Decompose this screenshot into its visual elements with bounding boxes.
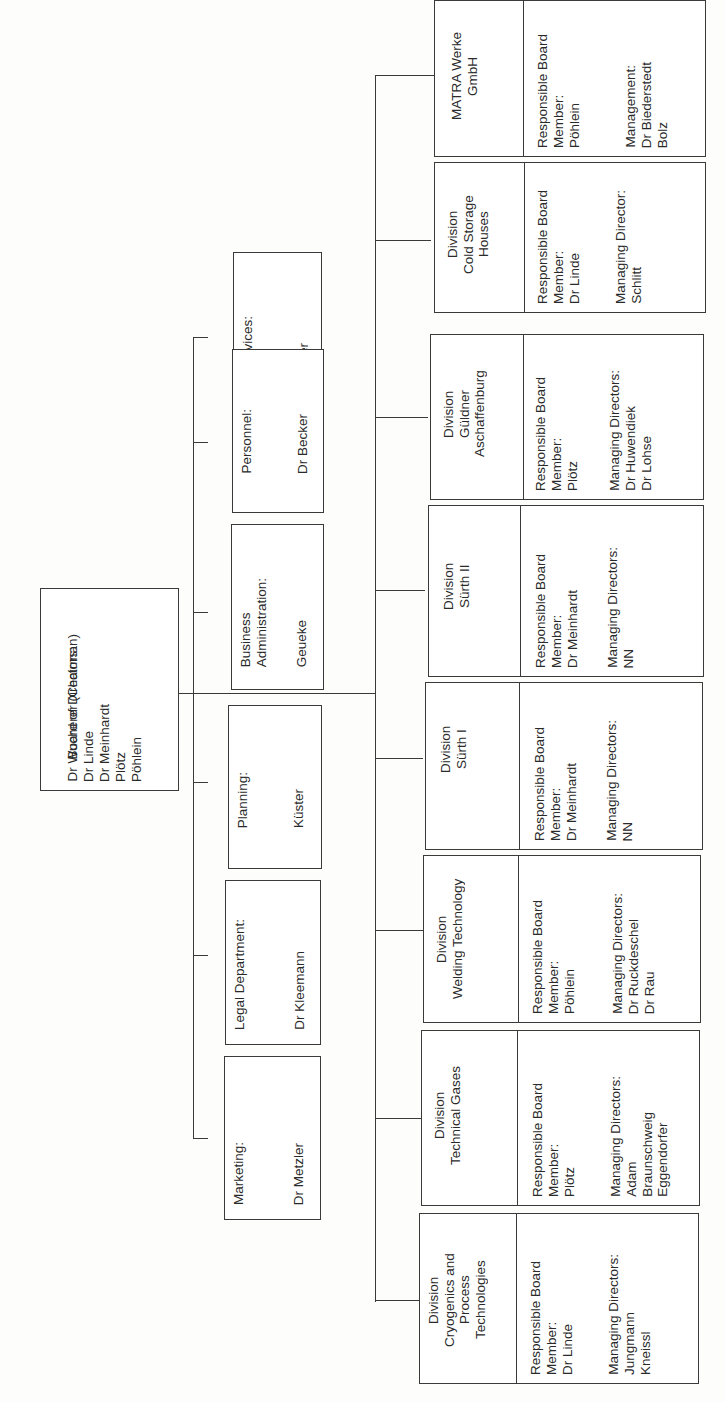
division-box-welding-technology: Division Welding Technology Responsible … [423,855,701,1023]
board-member: Plötz [113,752,128,782]
board-member-name: Dr Linde [567,253,582,304]
board-member-name: Pöhlein [562,969,577,1014]
management-names: NN [621,649,636,669]
management-names: NN [620,822,635,842]
division-name: Division Cold Storage Houses [445,195,491,274]
staff-title: Marketing: [231,1142,246,1205]
division-branch [375,1118,421,1119]
staff-box-personnel: Personnel: Dr Becker [232,349,324,513]
staff-branch [193,782,208,783]
management-names: Dr Huwendiek Dr Lohse [623,406,654,491]
staff-box-marketing: Marketing: Dr Metzler [224,1056,321,1220]
staff-head: Dr Metzler [291,1143,306,1205]
board-of-directors-box: Board of Directors: Dr Wucherer (Chairma… [40,588,179,791]
board-member-name: Dr Meinhardt [565,590,580,668]
board-member: Pöhlein [129,737,144,782]
staff-branch [193,612,208,613]
management-names: Dr Biederstedt Bolz [639,62,670,148]
division-box-suerth-2: Division Sürth II Responsible Board Memb… [428,505,704,677]
management-label: Management: [623,65,638,148]
board-member: Dr Wucherer (Chairman) [65,634,80,782]
staff-title: Planning: [235,772,250,828]
division-box-technical-gases: Division Technical Gases Responsible Boa… [421,1030,700,1206]
division-branch [375,1300,419,1301]
division-box-suerth-1: Division Sürth I Responsible Board Membe… [425,682,703,850]
division-name: MATRA Werke GmbH [449,32,480,120]
division-box-cryogenics-process-technologies: Division Cryogenics and Process Technolo… [419,1213,699,1384]
staff-head: Dr Kleemann [292,951,307,1030]
staff-trunk-line [193,337,194,1139]
board-member: Dr Meinhardt [97,704,112,782]
board-member-label: Responsible Board Member: [535,190,566,304]
management-names: Schlitt [629,267,644,304]
board-member-label: Responsible Board Member: [530,900,561,1014]
division-name: Division Güldner Aschaffenburg [441,371,487,458]
staff-box-business-administration: Business Administration: Geueke [231,524,324,690]
management-label: Managing Directors: [606,1254,621,1375]
board-member-label: Responsible Board Member: [533,377,564,491]
division-name: Division Sürth II [441,562,472,609]
division-name: Division Sürth I [438,725,469,772]
management-label: Managing Directors: [608,1076,623,1197]
division-box-cold-storage-houses: Division Cold Storage Houses Responsible… [434,162,706,313]
division-branch [375,930,423,931]
division-branch [375,417,428,418]
org-chart-page: Board of Directors: Dr Wucherer (Chairma… [0,0,725,1402]
division-name: Division Technical Gases [432,1065,463,1164]
staff-box-planning: Planning: Küster [228,705,322,869]
management-label: Managing Directors: [605,547,620,668]
division-name: Division Cryogenics and Process Technolo… [426,1253,488,1347]
board-member-label: Responsible Board Member: [533,554,564,668]
staff-branch [193,1138,208,1139]
staff-branch [193,442,208,443]
board-member-name: Pöhlein [567,103,582,148]
board-member-name: Plötz [562,1167,577,1197]
board-member-name: Dr Linde [560,1324,575,1375]
board-member-name: Dr Meinhardt [564,763,579,841]
staff-branch [193,955,208,956]
management-label: Managing Director: [613,190,628,304]
management-names: Dr Ruckdeschel Dr Rau [626,919,657,1014]
board-member-label: Responsible Board Member: [532,727,563,841]
staff-head: Küster [291,789,306,828]
staff-branch [193,337,208,338]
management-names: Jungmann Kneissl [622,1312,653,1375]
division-branch [375,240,431,241]
board-member-name: Plötz [565,461,580,491]
division-box-matra-werke: MATRA Werke GmbH Responsible Board Membe… [434,0,706,157]
management-label: Managing Directors: [607,370,622,491]
board-member-label: Responsible Board Member: [530,1083,561,1197]
staff-head: Geueke [294,620,309,667]
management-label: Managing Directors: [604,720,619,841]
division-branch [375,75,434,76]
division-name: Division Welding Technology [434,879,465,999]
board-member-label: Responsible Board Member: [528,1261,559,1375]
management-label: Managing Directors: [610,893,625,1014]
division-branch [375,758,423,759]
division-branch [375,590,425,591]
staff-head: Dr Becker [295,414,310,474]
board-member-label: Responsible Board Member: [535,34,566,148]
management-names: Adam Braunschweig Eggendorfer [624,1112,670,1197]
staff-title: Legal Department: [232,919,247,1030]
staff-title: Business Administration: [238,578,269,667]
board-connector [178,693,375,694]
board-member: Dr Linde [81,731,96,782]
division-box-gueldner-aschaffenburg: Division Güldner Aschaffenburg Responsib… [430,334,704,500]
staff-title: Personnel: [239,409,254,474]
staff-box-legal-department: Legal Department: Dr Kleemann [225,880,321,1045]
